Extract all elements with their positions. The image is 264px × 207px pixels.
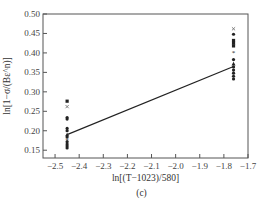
plot-frame — [43, 14, 248, 158]
x-tick-label: −2.2 — [119, 161, 135, 171]
y-tick-label: 0.30 — [24, 87, 40, 97]
y-tick-label: 0.15 — [24, 145, 40, 155]
x-tick-label: −1.8 — [216, 161, 233, 171]
x-tick-label: −2.4 — [71, 161, 88, 171]
star-marker: * — [232, 49, 236, 57]
x-tick-label: −2.5 — [47, 161, 64, 171]
circle-marker — [232, 58, 235, 61]
square-marker — [66, 100, 69, 103]
y-tick-label: 0.20 — [24, 126, 40, 136]
y-tick-label: 0.50 — [24, 9, 40, 19]
x-tick-label: −2.1 — [143, 161, 159, 171]
y-axis-label: ln[1−σ/(Bε^n)] — [2, 57, 13, 114]
circle-marker — [66, 117, 69, 120]
y-tick-label: 0.45 — [24, 28, 40, 38]
circle-marker — [232, 77, 235, 80]
panel-label: (c) — [136, 188, 147, 199]
y-tick-label: 0.25 — [24, 106, 40, 116]
circle-marker — [232, 33, 235, 36]
y-tick-label: 0.35 — [24, 67, 40, 77]
x-axis-label: ln[(T−1023)/580] — [112, 173, 179, 184]
circle-marker — [66, 129, 69, 132]
square-marker — [232, 42, 235, 45]
circle-marker — [232, 68, 235, 71]
circle-marker — [66, 146, 69, 149]
square-marker — [232, 44, 235, 47]
fit-line — [67, 67, 233, 135]
circle-marker — [232, 72, 235, 75]
chart-canvas: −2.5−2.4−2.3−2.2−2.1−2.0−1.9−1.8−1.70.50… — [0, 0, 264, 207]
triangle-marker — [232, 62, 236, 66]
x-tick-label: −1.9 — [192, 161, 209, 171]
y-tick-label: 0.40 — [24, 48, 40, 58]
circle-marker — [232, 75, 235, 78]
x-tick-label: −2.0 — [167, 161, 184, 171]
x-tick-label: −1.7 — [240, 161, 257, 171]
square-marker — [232, 39, 235, 42]
circle-marker — [232, 65, 235, 68]
x-tick-label: −2.3 — [95, 161, 112, 171]
